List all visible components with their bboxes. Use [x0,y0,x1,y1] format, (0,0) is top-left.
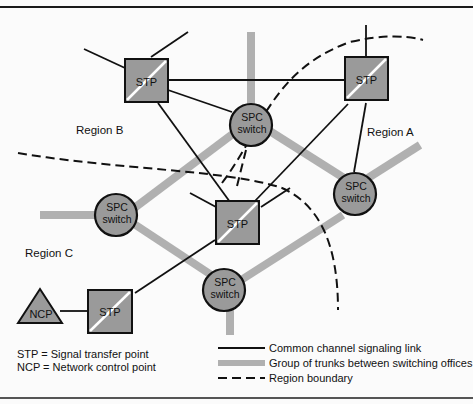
region-b-label: Region B [76,124,124,136]
stp-a: STP [345,57,388,100]
stp-c-label: STP [99,306,120,318]
legend-trunk-group: Group of trunks between switching office… [269,356,472,370]
stp-a-label: STP [356,74,377,86]
abbr-eq: = [41,348,47,360]
stp-center: STP [216,201,259,244]
region-c-label: Region C [25,247,73,259]
abbr-stp: STP [17,348,38,360]
spc-switch-bottom: SPC switch [203,269,245,311]
spc-bottom-line1: SPC [214,276,236,288]
ncp-label: NCP [29,308,52,320]
legend-signaling-link: Common channel signaling link [269,341,421,355]
stp-c: STP [88,290,132,333]
spc-bottom-line2: switch [210,288,239,300]
signaling-links [60,25,366,311]
abbr-eq: = [43,361,49,373]
stp-b-label: STP [136,76,157,88]
spc-right-line2: switch [341,192,370,204]
abbr-ncp: NCP [17,361,40,373]
legend-region-boundary: Region boundary [269,371,353,385]
abbr-ncp-meaning: Network control point [53,361,156,373]
spc-top-line2: switch [237,123,266,135]
spc-right-line1: SPC [345,180,367,192]
abbreviation-stp: STP = Signal transfer point [17,347,149,361]
bottom-rule [0,397,473,399]
spc-switch-left: SPC switch [95,194,137,236]
spc-left-line1: SPC [106,201,128,213]
region-a-label: Region A [367,126,414,138]
spc-top-line1: SPC [241,111,263,123]
abbr-stp-meaning: Signal transfer point [51,348,149,360]
ncp: NCP [18,289,62,323]
spc-switch-top: SPC switch [230,104,272,146]
stp-center-label: STP [227,218,248,230]
spc-left-line2: switch [102,213,131,225]
abbreviation-ncp: NCP = Network control point [17,360,156,374]
spc-switch-right: SPC switch [334,173,376,215]
stp-b: STP [125,59,168,102]
